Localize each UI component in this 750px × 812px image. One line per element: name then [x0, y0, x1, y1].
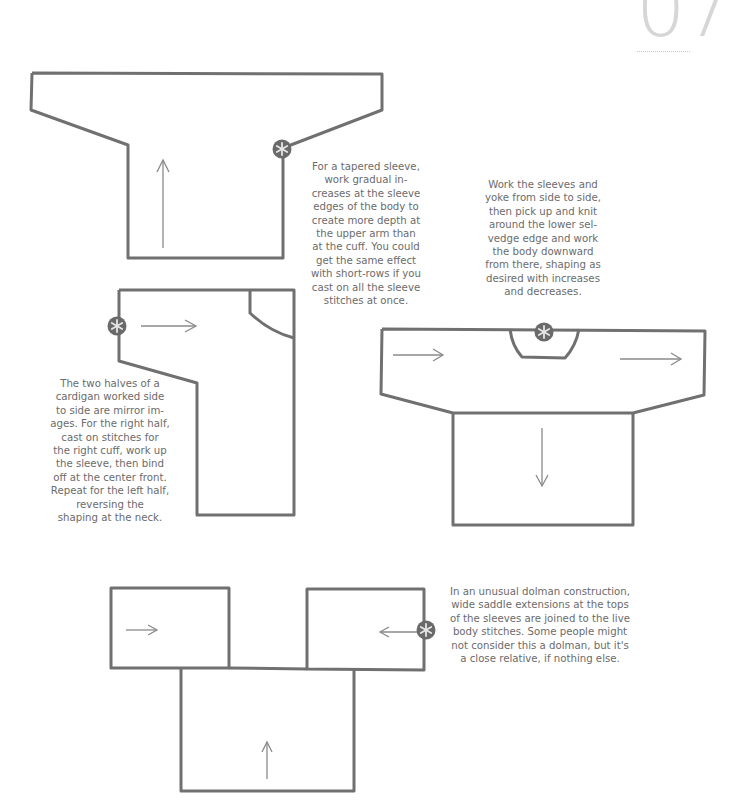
saddle-dolman-caption: In an unusual dolman construction, wide … [440, 585, 640, 665]
right-arrow-icon [393, 349, 443, 361]
asterisk-start-marker-icon [535, 323, 554, 342]
pullover-yoke-outline [381, 329, 705, 413]
pullover-caption: Work the sleeves and yoke from side to s… [468, 178, 618, 299]
right-saddle-outline [307, 589, 424, 670]
saddle-dolman-diagram [111, 588, 436, 791]
down-arrow-icon [536, 428, 548, 486]
asterisk-start-marker-icon [273, 140, 292, 159]
pullover-body-outline [453, 413, 633, 525]
asterisk-start-marker-icon [108, 317, 127, 336]
right-arrow-icon [126, 625, 157, 635]
cardigan-caption: The two halves of a cardigan worked side… [30, 377, 190, 524]
up-arrow-icon [157, 160, 169, 248]
asterisk-start-marker-icon [417, 621, 436, 640]
left-arrow-icon [380, 627, 417, 637]
left-saddle-outline [111, 588, 229, 668]
up-arrow-icon [262, 742, 272, 779]
cardigan-neck-shaping [250, 290, 294, 338]
right-arrow-icon [620, 353, 681, 365]
right-arrow-icon [141, 320, 196, 332]
tapered-sleeve-caption: For a tapered sleeve, work gradual in- c… [292, 160, 440, 307]
pullover-diagram [381, 323, 705, 526]
